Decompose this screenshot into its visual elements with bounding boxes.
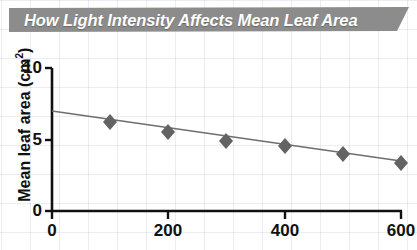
x-axis-tick-label-200: 200 (138, 221, 198, 241)
y-axis-title: Mean leaf area (cm2) (14, 25, 33, 225)
data-point (336, 146, 350, 162)
scatter-plot-svg (0, 33, 417, 250)
data-point (103, 114, 117, 130)
data-point-group (103, 114, 408, 171)
page-title: How Light Intensity Affects Mean Leaf Ar… (24, 9, 404, 31)
y-axis-title-close: ) (16, 48, 33, 53)
y-axis-title-main: Mean leaf area (cm (16, 59, 33, 202)
y-axis-title-superscript: 2 (14, 53, 25, 59)
x-axis-tick-label-600: 600 (371, 221, 417, 241)
x-axis-tick-label-400: 400 (255, 221, 315, 241)
data-point (394, 155, 408, 171)
chart-title-banner: How Light Intensity Affects Mean Leaf Ar… (9, 7, 409, 33)
data-point (278, 138, 292, 154)
chart-plot-area: 10 5 0 0 200 400 600 Mean leaf area (cm2… (0, 33, 417, 250)
